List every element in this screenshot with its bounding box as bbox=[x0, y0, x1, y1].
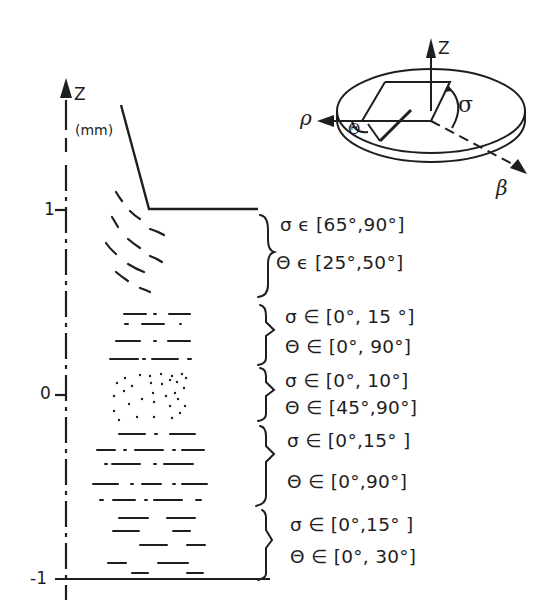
zone3-theta-range: Θ ∈ [45°,90°] bbox=[285, 397, 417, 418]
inset-sigma-label: σ bbox=[458, 92, 473, 117]
zone4-theta-range: Θ ∈ [0°,90°] bbox=[287, 471, 407, 492]
z-axis-label: Z bbox=[74, 84, 86, 104]
zone4-sigma-range: σ ∈ [0°,15° ] bbox=[287, 430, 411, 451]
zone-dashes bbox=[108, 518, 205, 573]
inset-theta-label: Θ bbox=[348, 120, 360, 138]
z-axis bbox=[55, 78, 270, 600]
zone1-sigma-range: σ ϵ [65°,90°] bbox=[280, 214, 405, 235]
zone-dash-dot bbox=[110, 314, 191, 359]
zone5-sigma-range: σ ∈ [0°,15° ] bbox=[290, 514, 414, 535]
inset-beta-label: β bbox=[496, 176, 508, 200]
surface-profile bbox=[121, 105, 258, 209]
tick-label-neg1: -1 bbox=[30, 568, 47, 588]
inset-z-label: Z bbox=[438, 38, 450, 58]
zone1-theta-range: Θ ϵ [25°,50°] bbox=[276, 252, 404, 273]
zone-dots bbox=[113, 373, 187, 421]
inset-rho-label: ρ bbox=[300, 106, 312, 130]
zone2-sigma-range: σ ∈ [0°, 15 °] bbox=[285, 306, 415, 327]
z-axis-unit: (mm) bbox=[75, 122, 113, 138]
zone-curved-dashes bbox=[106, 192, 164, 292]
zone5-theta-range: Θ ∈ [0°, 30°] bbox=[290, 546, 416, 567]
zone-dash-dot-dense bbox=[93, 434, 207, 500]
tick-label-0: 0 bbox=[40, 383, 51, 403]
zone-braces bbox=[256, 215, 274, 580]
tick-label-1: 1 bbox=[44, 199, 55, 219]
zone2-theta-range: Θ ∈ [0°, 90°] bbox=[285, 336, 411, 357]
zone3-sigma-range: σ ∈ [0°, 10°] bbox=[285, 370, 409, 391]
inset-disk bbox=[317, 38, 527, 174]
